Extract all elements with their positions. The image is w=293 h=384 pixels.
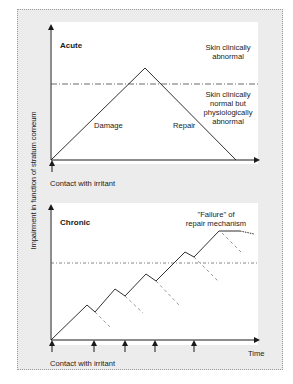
acute-chart: Acute Skin clinically abnormal Skin clin… (50, 27, 258, 188)
zone-below-line-2: normal but (210, 99, 247, 108)
acute-contact-label: Contact with irritant (50, 179, 116, 188)
chronic-title: Chronic (60, 218, 91, 227)
zone-below-line-3: physiologically (204, 108, 253, 117)
diagram-svg: Acute Skin clinically abnormal Skin clin… (0, 0, 293, 384)
zone-below-line-1: Skin clinically (205, 90, 250, 99)
repair-label: Repair (173, 121, 196, 130)
damage-label: Damage (94, 121, 123, 130)
failure-line-1: "Failure" of (197, 210, 235, 219)
chronic-contact-label: Contact with irritant (50, 359, 116, 368)
failure-line-2: repair mechanism (186, 219, 246, 228)
chronic-curve (51, 231, 240, 340)
failure-plateau (240, 231, 254, 234)
zone-above-line-2: abnormal (212, 52, 244, 61)
chronic-chart: Chronic "Failure" of repair mechanism Ti… (50, 207, 265, 368)
time-label: Time (248, 349, 265, 358)
repair-dashed-lines (95, 233, 243, 329)
zone-below-line-4: abnormal (212, 117, 244, 126)
acute-title: Acute (60, 41, 83, 50)
contact-arrows (52, 343, 194, 352)
zone-above-line-1: Skin clinically (205, 43, 250, 52)
